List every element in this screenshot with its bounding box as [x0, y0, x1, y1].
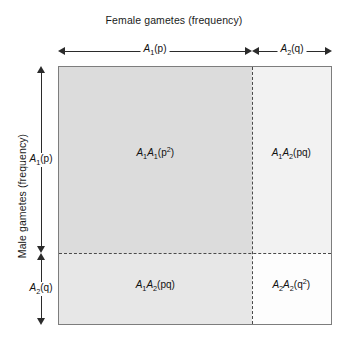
genotype-frequency: (p [158, 147, 167, 158]
arrowhead-left-icon [252, 47, 259, 55]
arrowhead-right-icon [245, 47, 252, 55]
genotype-frequency-close: ) [307, 279, 310, 290]
genotype-frequency-close: ) [171, 147, 174, 158]
quadrant-bottom-right: A2A2(q2) [252, 253, 331, 324]
quadrant-label-top-right: A1A2(pq) [252, 145, 331, 161]
side-axis-label-a1: A1(p) [27, 153, 56, 167]
quadrant-label-top-left: A1A1(p2) [59, 145, 252, 161]
genotype-frequency-close: ) [172, 279, 175, 290]
quadrant-top-right: A1A2(pq) [252, 67, 331, 253]
allele-symbol: A [30, 282, 37, 293]
allele-symbol: A [144, 43, 151, 54]
allele-symbol: A [281, 43, 288, 54]
arrowhead-right-icon [325, 47, 332, 55]
hardy-weinberg-figure: Female gametes (frequency) Male gametes … [0, 0, 348, 350]
arrowhead-left-icon [58, 47, 65, 55]
side-axis-segment-a2: A2(q) [34, 253, 48, 325]
genotype-allele-2: A [283, 279, 290, 290]
side-axis-segment-a1: A1(p) [34, 66, 48, 253]
quadrant-bottom-left: A1A2(pq) [59, 253, 252, 324]
quadrant-label-bottom-left: A1A2(pq) [59, 277, 252, 293]
side-axis-title: Male gametes (frequency) [16, 96, 28, 296]
genotype-frequency-close: ) [308, 147, 311, 158]
top-axis-segment-a1: A1(p) [58, 44, 252, 58]
genotype-frequency: (q [294, 279, 303, 290]
genotype-frequency: (pq [293, 147, 307, 158]
horizontal-divider [59, 253, 331, 254]
quadrant-label-bottom-right: A2A2(q2) [252, 277, 331, 293]
allele-symbol: A [30, 153, 37, 164]
arrowhead-up-icon [37, 66, 45, 73]
quadrant-top-left: A1A1(p2) [59, 67, 252, 253]
genotype-allele-2: A [147, 147, 154, 158]
top-axis-segment-a2: A2(q) [252, 44, 332, 58]
allele-frequency: (p) [40, 153, 52, 164]
top-axis-label-a1: A1(p) [141, 43, 170, 57]
punnett-square: A1A1(p2) A1A2(pq) A1A2(pq) A2A2(q2) [58, 66, 332, 325]
allele-frequency: (q) [291, 43, 303, 54]
allele-frequency: (q) [40, 282, 52, 293]
arrowhead-up-icon [37, 253, 45, 260]
arrowhead-down-icon [37, 246, 45, 253]
top-axis-title: Female gametes (frequency) [0, 14, 348, 26]
arrowhead-down-icon [37, 318, 45, 325]
top-axis-label-a2: A2(q) [278, 43, 307, 57]
side-axis-label-a2: A2(q) [27, 282, 56, 296]
genotype-frequency: (pq [157, 279, 171, 290]
vertical-divider [252, 67, 253, 324]
allele-frequency: (p) [154, 43, 166, 54]
